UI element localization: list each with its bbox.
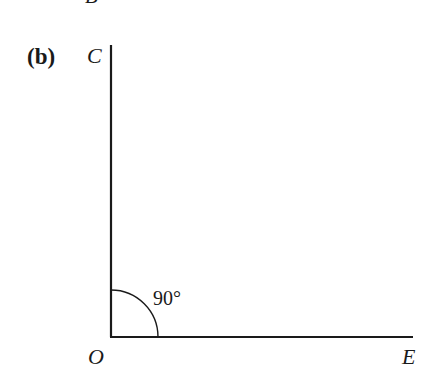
right-angle-diagram — [0, 0, 445, 380]
angle-arc — [111, 290, 158, 337]
